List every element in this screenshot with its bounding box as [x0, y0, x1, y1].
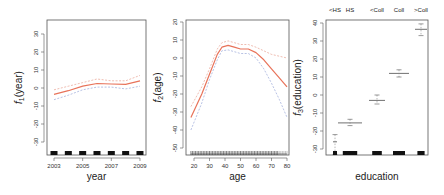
category-label: <Coll [370, 7, 384, 13]
x-tick-label: 60 [253, 163, 260, 169]
panel-year: -30-20-100102030f1(year)year200320052007… [13, 20, 147, 182]
rug-mark [343, 151, 357, 155]
x-tick-label: 50 [237, 163, 244, 169]
x-axis-title: age [229, 171, 246, 182]
panel-age: -50-40-30-20-1001020f2(age)age2030405060… [152, 18, 291, 182]
x-tick-label: 70 [268, 163, 275, 169]
y-tick-label: 0 [172, 56, 178, 60]
y-axis-title: f2(age) [152, 72, 164, 102]
rug-mark [65, 151, 72, 155]
y-tick-label: 10 [172, 36, 178, 43]
rug-mark [93, 151, 100, 155]
category-label: >Coll [414, 7, 428, 13]
y-axis-title: f3(education) [292, 59, 304, 116]
rug-mark [122, 151, 129, 155]
y-tick-label: -30 [312, 144, 318, 153]
y-tick-label: -20 [312, 126, 318, 135]
estimate-curve [54, 81, 140, 95]
category-label: Coll [394, 7, 404, 13]
rug-mark [51, 151, 58, 155]
se-band-curve [54, 86, 140, 100]
se-band-curve [191, 50, 287, 130]
rug-mark [136, 151, 143, 155]
y-tick-label: 10 [33, 66, 39, 73]
rug-mark [333, 151, 337, 155]
y-tick-label: -10 [172, 71, 178, 80]
y-tick-label: 30 [33, 30, 39, 37]
x-axis-title: year [87, 171, 107, 182]
rug-mark [417, 151, 424, 155]
y-axis-title-rest: (education) [292, 59, 303, 109]
x-tick-label: 20 [191, 163, 198, 169]
y-axis-title-rest: (year) [13, 71, 24, 97]
x-axis-title: education [355, 171, 398, 182]
y-tick-label: -10 [312, 108, 318, 117]
x-tick-label: 2009 [133, 163, 147, 169]
rug-mark [372, 151, 382, 155]
estimate-curve [191, 45, 287, 117]
gam-partial-plots: -30-20-100102030f1(year)year200320052007… [0, 0, 444, 195]
y-tick-label: -50 [172, 143, 178, 152]
rug-mark [108, 151, 115, 155]
y-tick-label: -40 [172, 125, 178, 134]
y-tick-label: 0 [312, 93, 318, 97]
y-tick-label: -20 [172, 89, 178, 98]
y-tick-label: -30 [33, 137, 39, 146]
panel-education: -30-20-10010203040f3(education)education… [292, 7, 428, 182]
y-tick-label: -30 [172, 107, 178, 116]
se-band-curve [191, 41, 287, 107]
x-tick-label: 30 [206, 163, 213, 169]
rug-mark [79, 151, 86, 155]
y-tick-label: -10 [33, 101, 39, 110]
y-axis-title-rest: (age) [152, 72, 163, 95]
y-tick-label: 20 [172, 18, 178, 25]
y-tick-label: 0 [33, 86, 39, 90]
category-label: HS [346, 7, 354, 13]
y-tick-label: 10 [312, 73, 318, 80]
y-axis-title: f1(year) [13, 71, 25, 104]
category-label: <HS [329, 7, 341, 13]
x-tick-label: 2007 [105, 163, 119, 169]
y-tick-label: 30 [312, 37, 318, 44]
rug-mark [393, 151, 405, 155]
x-tick-label: 2003 [47, 163, 61, 169]
y-tick-label: 40 [312, 19, 318, 26]
x-tick-label: 80 [284, 163, 291, 169]
se-band-curve [54, 75, 140, 89]
x-tick-label: 40 [222, 163, 229, 169]
y-tick-label: -20 [33, 119, 39, 128]
y-tick-label: 20 [33, 48, 39, 55]
plot-frame [326, 20, 428, 155]
x-tick-label: 2005 [76, 163, 90, 169]
y-tick-label: 20 [312, 55, 318, 62]
